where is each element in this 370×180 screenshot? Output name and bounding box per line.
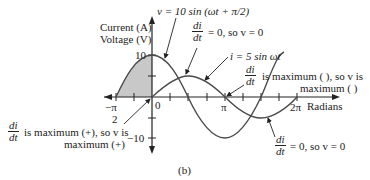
y-axis-down-arrow-icon: [149, 146, 155, 154]
y-tick-label-top: 10: [135, 49, 146, 61]
y-tick-label-bottom: −10: [127, 132, 144, 144]
max-neg-text-line1: is maximum ( ), so v is: [262, 70, 363, 82]
shaded-area: [116, 55, 152, 97]
pointer-max-pos: [124, 99, 150, 124]
current-equation: i = 5 sin ωt: [230, 50, 281, 62]
pointer-zero-bottom: [268, 118, 275, 137]
x-axis-label: Radians: [307, 100, 342, 112]
voltage-equation: v = 10 sin (ωt + π/2): [157, 5, 249, 17]
x-tick-label-neg-half-pi-num: −π: [105, 101, 117, 113]
x-axis-left-arrow-icon: [104, 94, 112, 100]
pointer-current-eq: [205, 57, 228, 80]
max-neg-text-line2: maximum ( ): [300, 82, 357, 94]
max-pos-text-line2: maximum (+): [64, 138, 125, 150]
y-axis-label-current: Current (A): [100, 21, 152, 33]
max-pos-text-line1: is maximum (+), so v is: [24, 126, 129, 138]
zero-top-text: = 0, so v = 0: [208, 26, 263, 38]
pointer-zero-top: [186, 48, 197, 74]
pointer-max-neg: [227, 85, 244, 96]
didt-fraction-max-neg: di dt: [245, 64, 256, 87]
x-tick-label-neg-half-pi-den: 2: [112, 113, 118, 125]
zero-bottom-text: = 0, so v = 0: [290, 140, 345, 152]
didt-fraction-top: di dt: [192, 20, 203, 43]
pointer-voltage-eq: [165, 18, 176, 58]
figure-caption: (b): [178, 164, 191, 176]
didt-fraction-max-pos: di dt: [8, 120, 19, 143]
x-tick-label-2pi: 2π: [290, 101, 301, 113]
x-tick-label-pi: π: [221, 101, 227, 113]
y-axis-label-voltage: Voltage (V): [100, 33, 151, 45]
x-tick-label-origin: 0: [155, 99, 161, 111]
didt-fraction-bottom: di dt: [275, 134, 286, 157]
